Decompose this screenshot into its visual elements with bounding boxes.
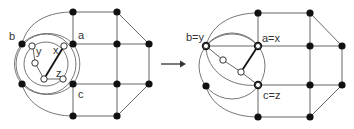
node-mid: [113, 40, 120, 47]
node-bot-mid: [113, 112, 120, 119]
node-mid-bot: [113, 80, 120, 87]
node-bot: [254, 113, 261, 120]
node-top-mid: [306, 9, 313, 16]
node-bottom-left: [18, 80, 25, 87]
node-top-mid: [113, 8, 120, 15]
left-graph: b a c y x z: [9, 8, 153, 119]
label-z: z: [56, 67, 62, 79]
node-right-bot: [338, 81, 345, 88]
node-right-bot: [145, 80, 152, 87]
label-c: c: [78, 88, 84, 100]
node-mid-bot: [306, 81, 313, 88]
node-inner-bot: [41, 76, 47, 82]
node-a-eq-x-inner: [255, 43, 260, 48]
node-right-top: [145, 40, 152, 47]
label-b-eq-y: b=y: [186, 31, 205, 43]
label-a: a: [78, 29, 85, 41]
node-inner-1: [220, 57, 226, 63]
node-top: [254, 9, 261, 16]
node-bottom-left: [202, 82, 209, 89]
node-mid: [306, 42, 313, 49]
node-x: [61, 43, 67, 49]
node-y: [29, 43, 35, 49]
label-x: x: [53, 44, 59, 56]
transform-arrow: [161, 61, 186, 68]
node-inner-2: [238, 69, 244, 75]
arrow-head-icon: [180, 61, 186, 68]
node-top: [69, 8, 76, 15]
node-bot: [69, 112, 76, 119]
label-c-eq-z: c=z: [263, 89, 280, 101]
right-graph: b=y a=x c=z: [186, 9, 346, 120]
node-inner-mid: [32, 60, 38, 66]
node-right-top: [338, 42, 345, 49]
node-a: [69, 40, 76, 47]
graph-diagram: b a c y x z: [0, 0, 354, 129]
node-b-eq-y-inner: [203, 43, 208, 48]
node-b: [18, 40, 25, 47]
node-c: [69, 80, 76, 87]
node-bot-mid: [306, 113, 313, 120]
label-a-eq-x: a=x: [262, 32, 281, 44]
label-b: b: [9, 30, 15, 42]
node-c-eq-z-inner: [255, 82, 260, 87]
label-y: y: [36, 45, 42, 57]
